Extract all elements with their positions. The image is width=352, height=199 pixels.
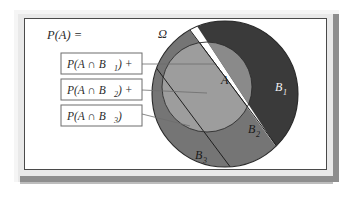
universe-label: Ω <box>158 27 167 41</box>
set-a-label: A <box>220 73 229 87</box>
figure-frame-highlight-top <box>14 10 339 14</box>
term-box-1-suffix: ) + <box>117 58 132 71</box>
figure-frame-highlight-left <box>14 10 18 182</box>
term-box-1-text: P(A ∩ B <box>66 58 106 71</box>
term-box-1[interactable]: P(A ∩ B 1 ) + <box>61 53 142 74</box>
term-box-2-suffix: ) + <box>117 84 132 97</box>
term-box-3-suffix: ) <box>117 110 122 123</box>
figure-panel: P(A) = Ω A B 1 B 2 B 3 P(A ∩ B <box>24 18 327 170</box>
term-box-2[interactable]: P(A ∩ B 2 ) + <box>61 79 142 100</box>
region-b1-label-base: B <box>275 80 283 94</box>
probability-expression: P(A) = <box>46 28 82 42</box>
figure-frame-shadow-right <box>333 14 339 182</box>
term-box-3-text: P(A ∩ B <box>66 110 106 123</box>
term-box-2-text: P(A ∩ B <box>66 84 106 97</box>
region-b1-label-subscript: 1 <box>283 88 287 97</box>
region-b2-label-base: B <box>248 122 256 136</box>
term-box-3[interactable]: P(A ∩ B 3 ) <box>61 105 142 126</box>
venn-figure: P(A) = Ω A B 1 B 2 B 3 P(A ∩ B <box>0 0 352 199</box>
region-b3-label-base: B <box>195 148 203 162</box>
region-b2-label-subscript: 2 <box>256 130 260 139</box>
venn-diagram-canvas: P(A) = Ω A B 1 B 2 B 3 P(A ∩ B <box>25 19 327 170</box>
region-b3-label-subscript: 3 <box>202 156 207 165</box>
figure-frame-shadow-bottom-soft <box>20 182 333 184</box>
